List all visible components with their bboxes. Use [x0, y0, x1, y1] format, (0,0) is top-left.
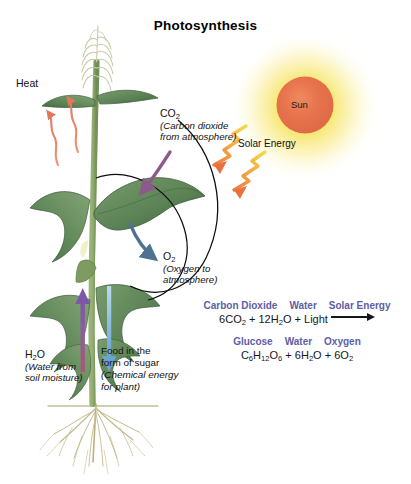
co2-formula: CO	[160, 107, 176, 119]
reactant-headers: Carbon DioxideWaterSolar Energy	[186, 300, 408, 311]
product-part-6: + 6H	[282, 349, 309, 361]
solar-energy-label: Solar Energy	[238, 138, 296, 149]
heat-arrows	[48, 98, 78, 165]
reactant-header-1: Water	[289, 300, 316, 311]
sun-label: Sun	[291, 100, 308, 111]
heat-label: Heat	[16, 78, 38, 90]
product-part-2: H	[253, 349, 261, 361]
illustration-layer	[0, 0, 411, 484]
product-header-0: Glucose	[233, 336, 272, 347]
product-formula: C6H12O6 + 6H2O + 6O2	[186, 349, 408, 363]
plant-stem	[92, 62, 99, 404]
right-arrow-icon	[331, 313, 375, 321]
product-header-1: Water	[285, 336, 312, 347]
product-part-8: O + 6O	[313, 349, 349, 361]
reactant-formula: 6CO2 + 12H2O + Light	[186, 313, 408, 327]
o2-label-group: O2 (Oxygen to atmosphere)	[163, 251, 217, 286]
food-line-3: (Chemical energy	[101, 369, 178, 381]
food-line-1: Food in the	[101, 345, 178, 357]
o2-arrow	[130, 224, 154, 258]
o2-description-line2: atmosphere)	[163, 275, 217, 286]
food-line-4: for plant)	[101, 381, 178, 393]
reactant-part-0: 6CO	[219, 313, 242, 325]
product-headers: GlucoseWaterOxygen	[186, 336, 408, 347]
food-label-group: Food in the form of sugar (Chemical ener…	[101, 345, 178, 393]
product-part-0: C	[241, 349, 249, 361]
photosynthesis-diagram: Photosynthesis Heat Sun Solar Energy CO2…	[0, 0, 411, 484]
product-header-2: Oxygen	[324, 336, 361, 347]
co2-description-line2: from atmosphere)	[160, 132, 236, 143]
o2-formula: O	[163, 250, 171, 262]
co2-label-group: CO2 (Carbon dioxide from atmosphere)	[160, 108, 236, 143]
product-part-9: 2	[349, 354, 353, 363]
reactant-header-0: Carbon Dioxide	[203, 300, 277, 311]
chemical-equation: Carbon DioxideWaterSolar Energy 6CO2 + 1…	[186, 300, 408, 363]
reactant-part-4: O + Light	[283, 313, 328, 325]
page-title: Photosynthesis	[0, 18, 411, 33]
h2o-description-line2: soil moisture)	[25, 373, 83, 384]
h2o-formula-o: O	[37, 348, 45, 360]
root-system	[40, 404, 158, 474]
food-line-2: form of sugar	[101, 357, 178, 369]
product-part-4: O	[269, 349, 278, 361]
h2o-label-group: H2O (Water from soil moisture)	[25, 349, 83, 384]
reactant-part-2: + 12H	[246, 313, 279, 325]
solar-arrowheads	[214, 161, 247, 199]
reactant-header-2: Solar Energy	[329, 300, 391, 311]
h2o-formula-h: H	[25, 348, 33, 360]
